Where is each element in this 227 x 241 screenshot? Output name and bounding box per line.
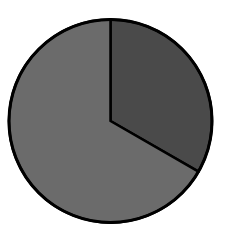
pie-chart [0, 0, 227, 241]
pie-chart-svg [0, 0, 227, 241]
